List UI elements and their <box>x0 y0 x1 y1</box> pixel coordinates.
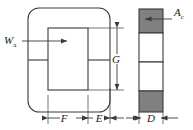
core-window-outline <box>48 28 88 90</box>
dimension-D: D <box>136 112 178 124</box>
side-view <box>139 9 163 112</box>
dimension-F: F <box>48 112 88 124</box>
front-view <box>28 8 110 112</box>
figure-canvas: Wa G F E <box>0 0 193 130</box>
core-diagram-svg: Wa G F E <box>0 0 193 130</box>
side-segment-upper-mid <box>139 33 163 62</box>
window-area-label: Wa <box>4 34 17 49</box>
window-width-label: E <box>95 112 103 124</box>
side-segment-top-shaded <box>139 9 163 33</box>
leg-width-label: F <box>60 112 68 124</box>
depth-label: D <box>146 112 155 124</box>
window-height-label: G <box>112 53 120 65</box>
core-area-label: Ac <box>173 6 184 21</box>
side-segment-lower-mid <box>139 62 163 91</box>
dimension-E: E <box>88 112 110 124</box>
side-segment-bottom-shaded <box>139 91 163 112</box>
